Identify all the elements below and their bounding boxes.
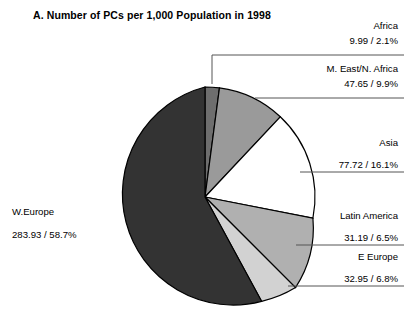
label-middle-east-north-africa: M. East/N. Africa 47.65 / 9.9% — [327, 61, 398, 91]
label-asia-name: Asia — [339, 135, 398, 150]
label-middle-east-north-africa-value: 47.65 / 9.9% — [327, 76, 398, 91]
label-west-europe: W.Europe 283.93 / 58.7% — [12, 204, 77, 242]
label-asia-value: 77.72 / 16.1% — [339, 157, 398, 172]
pie-slices — [122, 87, 315, 305]
label-west-europe-name: W.Europe — [12, 204, 77, 219]
label-middle-east-north-africa-name: M. East/N. Africa — [327, 61, 398, 76]
label-east-europe-name: E Europe — [344, 249, 398, 264]
label-latin-america: Latin America 31.19 / 6.5% — [340, 208, 398, 245]
label-africa-value: 9.99 / 2.1% — [349, 33, 398, 48]
label-east-europe-value: 32.95 / 6.8% — [344, 271, 398, 286]
label-latin-america-value: 31.19 / 6.5% — [340, 230, 398, 245]
label-west-europe-value: 283.93 / 58.7% — [12, 227, 77, 242]
label-africa-name: Africa — [349, 18, 398, 33]
label-africa: Africa 9.99 / 2.1% — [349, 18, 398, 48]
label-asia: Asia 77.72 / 16.1% — [339, 135, 398, 172]
pie-chart-figure: A. Number of PCs per 1,000 Population in… — [0, 0, 404, 325]
label-east-europe: E Europe 32.95 / 6.8% — [344, 249, 398, 286]
label-latin-america-name: Latin America — [340, 208, 398, 223]
